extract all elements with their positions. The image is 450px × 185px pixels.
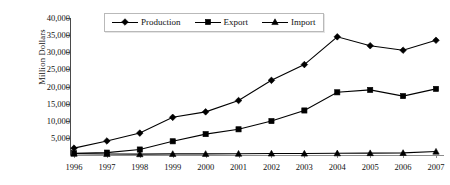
data-point [236,127,241,132]
legend-item-import[interactable]: Import [262,18,316,27]
data-point [368,87,373,92]
data-point [268,77,275,84]
data-point [137,130,144,137]
square-marker-icon [195,18,221,27]
legend-label: Import [291,18,316,27]
series-import [71,148,439,156]
legend-item-production[interactable]: Production [112,18,181,27]
diamond-marker-icon [112,18,138,27]
data-point [202,109,209,116]
data-point [203,132,208,137]
series-line [74,152,436,155]
data-point [269,118,274,123]
line-chart: Million Dollars 40,00035,00030,00025,000… [0,0,450,185]
series-line [74,89,436,153]
data-point [400,93,405,98]
legend-item-export[interactable]: Export [195,18,249,27]
data-point [433,86,438,91]
data-point [400,47,407,54]
data-point [170,139,175,144]
data-point [235,97,242,104]
data-point [104,138,111,145]
data-point [335,90,340,95]
triangle-marker-icon [262,18,288,27]
data-point [302,108,307,113]
series-export [71,86,438,156]
data-point [367,42,374,49]
data-point [169,114,176,121]
chart-legend: ProductionExportImport [104,13,324,32]
data-point [433,37,440,44]
legend-label: Production [141,18,181,27]
legend-label: Export [224,18,249,27]
